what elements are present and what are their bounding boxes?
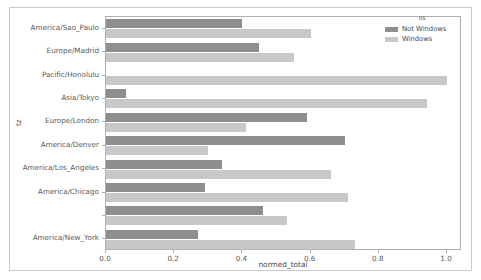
bar[interactable]: [106, 43, 259, 52]
bar[interactable]: [106, 160, 222, 169]
x-tick-mark: [378, 250, 379, 253]
legend-item[interactable]: Windows: [385, 35, 467, 43]
bar[interactable]: [106, 113, 307, 122]
x-tick-mark: [241, 250, 242, 253]
bar[interactable]: [106, 136, 345, 145]
legend-swatch-not-windows: [385, 27, 398, 32]
x-axis-label: normed_total: [105, 260, 461, 269]
x-tick-mark: [446, 250, 447, 253]
bar[interactable]: [106, 193, 348, 202]
bar[interactable]: [106, 230, 198, 239]
bar[interactable]: [106, 146, 208, 155]
bar[interactable]: [106, 76, 447, 85]
bar[interactable]: [106, 53, 294, 62]
legend-swatch-windows: [385, 37, 398, 42]
bar[interactable]: [106, 216, 287, 225]
legend: os Not Windows Windows: [385, 14, 467, 45]
bar[interactable]: [106, 183, 205, 192]
plot-area: [105, 16, 461, 250]
legend-label-not-windows: Not Windows: [402, 25, 446, 33]
legend-label-windows: Windows: [402, 35, 432, 43]
bar[interactable]: [106, 170, 331, 179]
bars-layer: [106, 17, 460, 249]
bar[interactable]: [106, 99, 427, 108]
bar[interactable]: [106, 123, 246, 132]
bar[interactable]: [106, 89, 126, 98]
x-tick-mark: [105, 250, 106, 253]
bar[interactable]: [106, 240, 355, 249]
legend-item[interactable]: Not Windows: [385, 25, 467, 33]
figure: tz America/Sao_PauloEurope/MadridPacific…: [0, 0, 481, 280]
y-axis-tick-marks: [0, 16, 110, 250]
bar[interactable]: [106, 19, 242, 28]
bar[interactable]: [106, 206, 263, 215]
bar[interactable]: [106, 29, 311, 38]
x-tick-mark: [310, 250, 311, 253]
x-tick-mark: [173, 250, 174, 253]
legend-title: os: [377, 14, 467, 22]
